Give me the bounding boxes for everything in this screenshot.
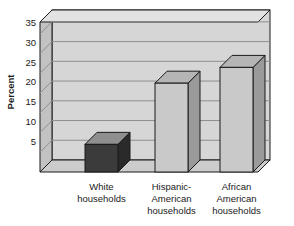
category-label-line: American [216,193,256,204]
bar-side-face [188,71,200,172]
category-label-line: households [77,193,126,204]
category-label-line: Hispanic- [152,181,192,192]
bar-column [220,55,265,172]
y-axis-tick-label: 10 [25,116,36,127]
y-axis-tick-label: 15 [25,96,36,107]
y-axis-title: Percent [5,74,16,110]
bar-front-face [85,144,118,172]
y-axis-tick-label: 20 [25,76,36,87]
bar-side-face [253,55,265,172]
bar-column [85,132,130,172]
y-axis-tick-label: 5 [31,136,36,147]
bar-front-face [220,67,253,172]
category-label-line: White [89,181,113,192]
bar-column [155,71,200,172]
y-axis-tick-label: 25 [25,57,36,68]
x-axis-category-label: Hispanic-Americanhouseholds [147,181,196,216]
category-label-line: households [147,205,196,216]
category-label-line: American [151,193,191,204]
y-axis-tick-label: 30 [25,37,36,48]
category-label-line: households [212,205,261,216]
category-label-line: African [222,181,252,192]
bar-front-face [155,83,188,172]
plot-top-edge [40,10,270,22]
bar-chart: 5101520253035 Percent WhitehouseholdsHis… [0,0,294,226]
chart-canvas: 5101520253035 Percent WhitehouseholdsHis… [0,0,294,226]
y-axis-tick-label: 35 [25,17,36,28]
